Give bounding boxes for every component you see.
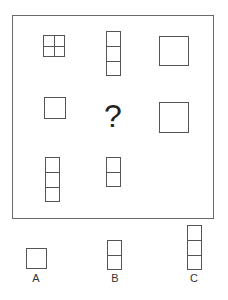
stack-cell xyxy=(107,240,122,256)
stack-cell xyxy=(45,187,60,202)
figure-vertical-stack-2 xyxy=(106,157,121,187)
stack-cell xyxy=(187,255,202,270)
option-a-figure-medium-square[interactable] xyxy=(26,248,47,269)
stack-cell xyxy=(106,157,121,173)
option-a-label[interactable]: A xyxy=(26,272,46,284)
stack-cell xyxy=(187,240,202,256)
question-mark: ? xyxy=(100,98,126,134)
square-outline xyxy=(159,102,189,133)
figure-large-square xyxy=(159,102,189,133)
figure-vertical-stack-3 xyxy=(45,157,60,202)
stack-cell xyxy=(106,31,121,47)
stack-cell xyxy=(187,225,202,241)
square-outline xyxy=(44,97,66,119)
grid-cell xyxy=(54,46,65,57)
figure-2x2-grid xyxy=(43,35,65,57)
stack-cell xyxy=(107,255,122,270)
stack-cell xyxy=(106,61,121,76)
option-c-figure-vertical-stack-3[interactable] xyxy=(187,225,202,270)
option-c-label[interactable]: C xyxy=(184,272,204,284)
figure-medium-square xyxy=(44,97,66,119)
stack-cell xyxy=(106,172,121,187)
figure-large-square xyxy=(159,36,189,66)
stack-cell xyxy=(45,172,60,188)
square-outline xyxy=(26,248,47,269)
stack-cell xyxy=(45,157,60,173)
figure-vertical-stack-3 xyxy=(106,31,121,76)
stack-cell xyxy=(106,46,121,62)
option-b-label[interactable]: B xyxy=(105,272,125,284)
option-b-figure-vertical-stack-2[interactable] xyxy=(107,240,122,270)
square-outline xyxy=(159,36,189,66)
